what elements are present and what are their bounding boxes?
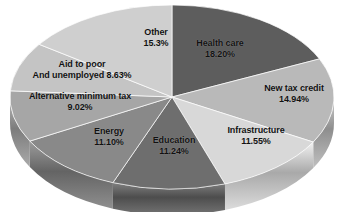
slice-label-other-name: Other xyxy=(126,27,186,38)
slice-label-alternative-minimum-tax: Alternative minimum tax 9.02% xyxy=(12,91,148,112)
slice-label-education: Education 11.24% xyxy=(136,135,212,156)
slice-label-aid-to-poor-and-unemployed: Aid to poor And unemployed 8.63% xyxy=(8,59,156,80)
pie-chart: Other 15.3% Health care 18.20% New tax c… xyxy=(0,0,350,212)
slice-label-alternative-minimum-tax-name: Alternative minimum tax xyxy=(12,91,148,102)
slice-label-education-name: Education xyxy=(136,135,212,146)
slice-label-new-tax-credit: New tax credit 14.94% xyxy=(248,83,340,104)
slice-label-other-value: 15.3% xyxy=(126,38,186,49)
slice-label-energy: Energy 11.10% xyxy=(74,126,144,147)
slice-label-aid-to-poor-value: And unemployed 8.63% xyxy=(8,70,156,81)
slice-label-new-tax-credit-name: New tax credit xyxy=(248,83,340,94)
slice-label-other: Other 15.3% xyxy=(126,27,186,48)
slice-label-aid-to-poor-name: Aid to poor xyxy=(8,59,156,70)
slice-label-health-care-value: 18.20% xyxy=(180,49,260,60)
slice-label-health-care: Health care 18.20% xyxy=(180,38,260,59)
slice-label-infrastructure: Infrastructure 11.55% xyxy=(210,125,302,146)
slice-label-infrastructure-name: Infrastructure xyxy=(210,125,302,136)
slice-label-energy-value: 11.10% xyxy=(74,137,144,148)
slice-label-infrastructure-value: 11.55% xyxy=(210,136,302,147)
slice-label-alternative-minimum-tax-value: 9.02% xyxy=(12,102,148,113)
slice-label-health-care-name: Health care xyxy=(180,38,260,49)
slice-label-education-value: 11.24% xyxy=(136,146,212,157)
slice-label-new-tax-credit-value: 14.94% xyxy=(248,94,340,105)
slice-label-energy-name: Energy xyxy=(74,126,144,137)
